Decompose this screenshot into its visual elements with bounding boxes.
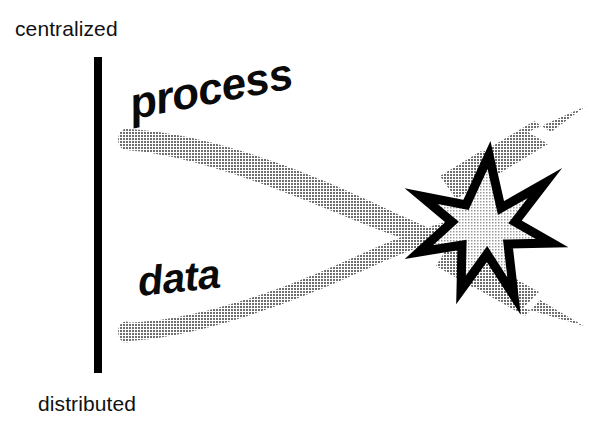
flow-label-data: data: [136, 254, 222, 303]
diagram-graphics: [0, 0, 610, 437]
diagram-canvas: centralized distributed process data: [0, 0, 610, 437]
axis-label-centralized: centralized: [15, 18, 118, 39]
axis-label-distributed: distributed: [38, 393, 136, 414]
output-arrow-up-right: [440, 106, 586, 199]
process-flow-arrow: [118, 129, 455, 252]
vertical-axis-bar: [94, 57, 102, 373]
